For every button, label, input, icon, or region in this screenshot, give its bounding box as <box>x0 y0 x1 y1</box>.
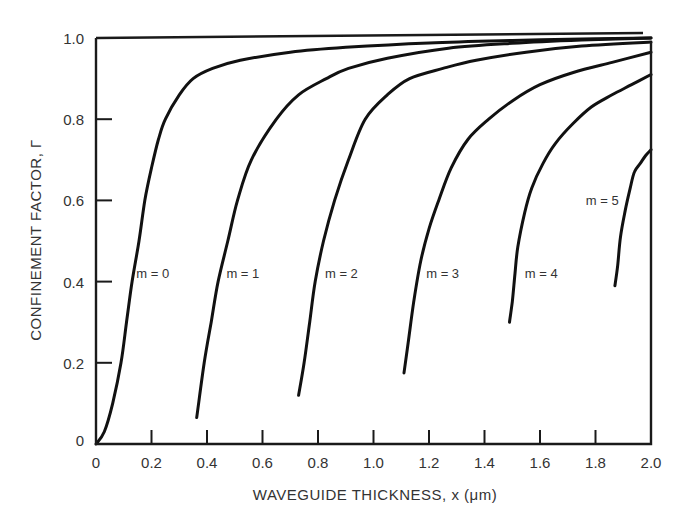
axes-lines <box>96 38 651 444</box>
y-tick-label: 0.6 <box>63 192 84 209</box>
x-tick-label: 1.4 <box>474 454 495 471</box>
x-tick-label: 0 <box>92 454 100 471</box>
x-tick-label: 1.6 <box>530 454 551 471</box>
y-axis-ticks: 00.20.40.60.81.0 <box>63 30 112 449</box>
curve-label-m4: m = 4 <box>525 266 558 281</box>
y-axis-title: CONFINEMENT FACTOR, Γ <box>27 139 44 341</box>
curve-m4 <box>510 75 652 323</box>
mode-curves <box>96 38 651 444</box>
curve-label-m3: m = 3 <box>426 266 459 281</box>
x-tick-label: 0.4 <box>197 454 218 471</box>
curve-m0 <box>96 38 651 444</box>
y-tick-label: 1.0 <box>63 30 84 47</box>
x-tick-label: 2.0 <box>641 454 662 471</box>
x-tick-label: 1.8 <box>585 454 606 471</box>
curve-labels: m = 0m = 1m = 2m = 3m = 4m = 5 <box>136 193 618 281</box>
y-tick-label: 0.8 <box>63 111 84 128</box>
y-tick-label: 0 <box>76 432 84 449</box>
x-tick-label: 0.8 <box>308 454 329 471</box>
confinement-factor-chart: 00.20.40.60.81.01.21.41.61.82.0 00.20.40… <box>0 0 684 520</box>
curve-m5 <box>615 150 651 286</box>
curve-label-m5: m = 5 <box>586 193 619 208</box>
curve-label-m1: m = 1 <box>226 266 259 281</box>
top-border <box>96 33 643 38</box>
curve-m3 <box>404 52 651 373</box>
x-axis-ticks: 00.20.40.60.81.01.21.41.61.82.0 <box>92 430 662 471</box>
y-tick-label: 0.2 <box>63 355 84 372</box>
x-tick-label: 0.6 <box>252 454 273 471</box>
curve-label-m2: m = 2 <box>325 266 358 281</box>
x-tick-label: 0.2 <box>141 454 162 471</box>
curve-label-m0: m = 0 <box>136 266 169 281</box>
curve-m1 <box>197 38 651 418</box>
x-tick-label: 1.2 <box>419 454 440 471</box>
x-axis-title: WAVEGUIDE THICKNESS, x (μm) <box>253 486 497 503</box>
y-tick-label: 0.4 <box>63 274 84 291</box>
x-tick-label: 1.0 <box>363 454 384 471</box>
curve-m2 <box>299 42 651 395</box>
